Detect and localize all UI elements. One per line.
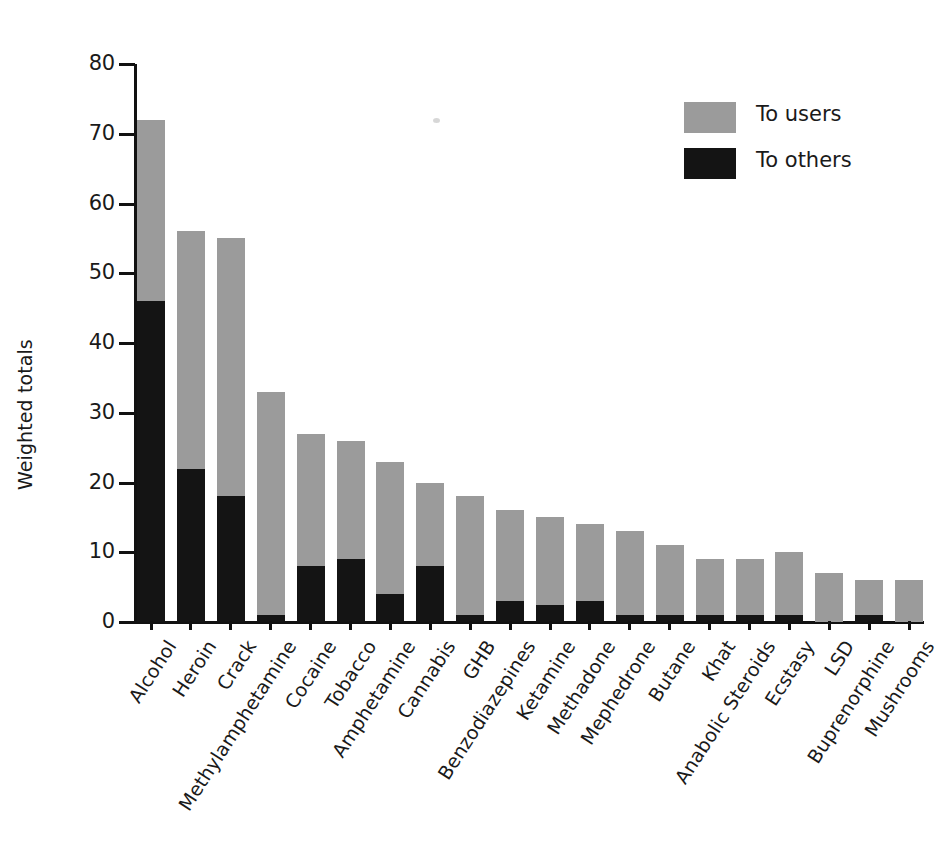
bar-group[interactable] [496,510,524,622]
y-tick-label: 10 [43,539,115,563]
y-tick-mark [119,133,135,136]
chart-figure: Weighted totals 01020304050607080 Alcoho… [0,0,952,861]
bar-segment-to-others[interactable] [376,594,404,622]
bar-group[interactable] [217,238,245,622]
y-tick-mark [119,63,135,66]
bar-segment-to-users[interactable] [815,573,843,622]
y-tick-mark [119,551,135,554]
bar-group[interactable] [696,559,724,622]
bar-segment-to-users[interactable] [895,580,923,622]
bar-segment-to-users[interactable] [536,517,564,604]
y-tick-label: 60 [43,191,115,215]
x-tick-mark [269,621,272,630]
bar-segment-to-others[interactable] [576,601,604,622]
bar-segment-to-others[interactable] [337,559,365,622]
y-tick-mark [119,342,135,345]
y-axis-title: Weighted totals [14,250,36,490]
y-tick-label: 0 [43,609,115,633]
x-tick-mark [389,621,392,630]
x-tick-mark [628,621,631,630]
bar-group[interactable] [576,524,604,622]
bar-group[interactable] [257,392,285,622]
x-tick-mark [229,621,232,630]
bar-group[interactable] [177,231,205,622]
bar-segment-to-users[interactable] [137,120,165,301]
y-tick-label: 20 [43,470,115,494]
bar-segment-to-others[interactable] [416,566,444,622]
bar-segment-to-others[interactable] [496,601,524,622]
x-tick-mark [509,621,512,630]
x-tick-mark [309,621,312,630]
y-tick-mark [119,621,135,624]
bar-segment-to-users[interactable] [656,545,684,615]
x-tick-mark [908,621,911,630]
x-tick-mark [788,621,791,630]
x-tick-mark [708,621,711,630]
bar-segment-to-others[interactable] [177,469,205,622]
legend-swatch-users [684,102,736,133]
y-tick-label: 50 [43,260,115,284]
x-tick-mark [469,621,472,630]
legend-label: To users [756,102,842,126]
bar-segment-to-others[interactable] [217,496,245,622]
x-tick-mark [429,621,432,630]
bar-group[interactable] [416,483,444,623]
x-tick-mark [748,621,751,630]
bar-group[interactable] [376,462,404,622]
bar-segment-to-users[interactable] [456,496,484,615]
y-tick-label: 80 [43,51,115,75]
legend-label: To others [756,148,852,172]
bar-segment-to-users[interactable] [616,531,644,615]
y-tick-label: 70 [43,121,115,145]
y-tick-mark [119,272,135,275]
bar-group[interactable] [137,120,165,622]
bar-group[interactable] [855,580,883,622]
x-axis-label: Alcohol [124,636,181,707]
bar-group[interactable] [337,441,365,622]
y-tick-mark [119,203,135,206]
bar-segment-to-users[interactable] [736,559,764,615]
bar-group[interactable] [736,559,764,622]
bar-segment-to-users[interactable] [416,483,444,567]
bar-segment-to-users[interactable] [775,552,803,615]
bar-segment-to-others[interactable] [536,605,564,622]
bar-group[interactable] [536,517,564,622]
bar-group[interactable] [656,545,684,622]
bar-group[interactable] [297,434,325,622]
bar-segment-to-others[interactable] [137,301,165,622]
legend-swatch-others [684,148,736,179]
y-tick-mark [119,412,135,415]
x-tick-mark [588,621,591,630]
x-tick-mark [868,621,871,630]
y-tick-label: 40 [43,330,115,354]
y-tick-label: 30 [43,400,115,424]
bar-segment-to-others[interactable] [297,566,325,622]
bar-segment-to-users[interactable] [576,524,604,601]
x-axis-label: LSD [820,636,859,679]
bar-segment-to-users[interactable] [696,559,724,615]
bar-segment-to-users[interactable] [337,441,365,560]
bar-segment-to-users[interactable] [257,392,285,615]
bar-segment-to-users[interactable] [217,238,245,496]
bar-segment-to-users[interactable] [496,510,524,601]
bar-group[interactable] [456,496,484,622]
bar-group[interactable] [775,552,803,622]
x-tick-mark [668,621,671,630]
y-tick-mark [119,482,135,485]
bar-segment-to-users[interactable] [855,580,883,615]
x-tick-mark [828,621,831,630]
x-tick-mark [349,621,352,630]
bar-group[interactable] [815,573,843,622]
x-tick-mark [150,621,153,630]
bar-segment-to-users[interactable] [177,231,205,468]
x-tick-mark [189,621,192,630]
bar-segment-to-users[interactable] [297,434,325,567]
scan-artifact-speck [433,118,440,123]
bar-group[interactable] [616,531,644,622]
x-tick-mark [549,621,552,630]
bar-segment-to-users[interactable] [376,462,404,595]
bar-group[interactable] [895,580,923,622]
